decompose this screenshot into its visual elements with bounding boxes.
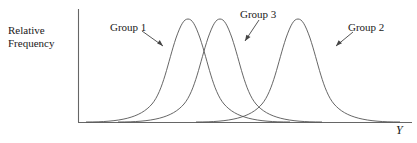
y-axis-label: Relative Frequency <box>8 24 72 49</box>
x-axis-label: Y <box>396 123 403 138</box>
curve-label-group-3: Group 3 <box>240 8 276 20</box>
arrow-group-2 <box>336 32 353 46</box>
curve-label-group-2: Group 2 <box>348 21 384 33</box>
arrow-group-3 <box>245 20 259 41</box>
chart-figure: Relative Frequency Y Group 1 Group 3 Gro… <box>0 0 417 143</box>
curve-label-group-1: Group 1 <box>110 21 146 33</box>
density-curves-group <box>86 19 400 122</box>
density-curve-group-3 <box>118 19 322 122</box>
annotation-arrows-group <box>142 20 353 46</box>
arrow-group-1 <box>142 31 163 46</box>
